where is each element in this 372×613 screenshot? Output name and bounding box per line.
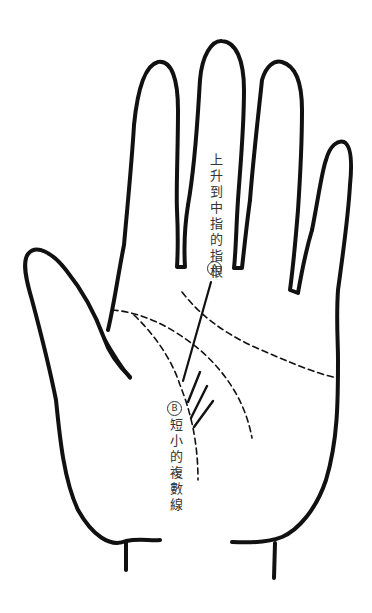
ring-finger-outline bbox=[250, 62, 312, 293]
short-line-1 bbox=[188, 372, 200, 402]
line-b-short-lines bbox=[188, 372, 213, 427]
life-line bbox=[134, 315, 198, 480]
annotation-b-text: 短小的複數線 bbox=[168, 417, 184, 513]
wrist-right bbox=[274, 543, 275, 578]
thumb-crease bbox=[104, 338, 130, 378]
line-a-fate-line bbox=[183, 282, 211, 381]
palm-diagram bbox=[0, 0, 372, 613]
palm-lines bbox=[112, 292, 337, 480]
thumb-outline bbox=[25, 250, 160, 543]
annotation-b-badge: B bbox=[167, 401, 182, 416]
annotation-a-badge: A bbox=[207, 261, 222, 276]
index-finger-outline bbox=[108, 62, 188, 330]
hand-outline bbox=[25, 41, 351, 543]
